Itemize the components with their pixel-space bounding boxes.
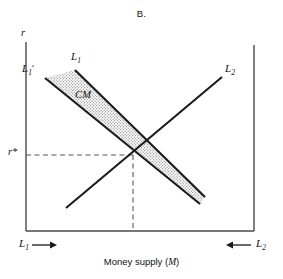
- shaded-region-label-cm: CM: [75, 89, 91, 100]
- bottom-left-arrow-icon: [32, 242, 57, 249]
- foot-label-l1-sub: 1: [25, 243, 29, 252]
- x-axis-caption: Money supply (M): [0, 256, 283, 267]
- figure-canvas: [0, 0, 283, 279]
- foot-label-l1: L1: [19, 237, 29, 252]
- curve-l1: [75, 70, 205, 197]
- curve-label-l1-prime: L1′: [22, 62, 34, 77]
- bottom-right-arrow-icon: [226, 242, 251, 249]
- y-axis-label: r: [21, 27, 25, 38]
- foot-label-l2: L2: [256, 237, 266, 252]
- shaded-cm-band: [45, 70, 205, 204]
- foot-label-l2-sub: 2: [262, 243, 266, 252]
- curve-l1-prime: [45, 78, 200, 204]
- curve-label-l2: L2: [225, 62, 235, 77]
- curve-label-l1-prime-mark: ′: [32, 63, 34, 74]
- curve-label-l1: L1: [71, 50, 81, 65]
- curve-label-l2-sub: 2: [231, 68, 235, 77]
- equilibrium-rate-label: r*: [8, 146, 17, 157]
- economics-figure-panel-b: B.: [0, 0, 283, 279]
- curve-label-l1-sub: 1: [77, 56, 81, 65]
- x-axis-caption-close: ): [176, 256, 179, 267]
- panel-title: B.: [0, 8, 283, 19]
- x-axis-caption-variable: M: [168, 257, 176, 267]
- x-axis-caption-text: Money supply (: [104, 256, 168, 267]
